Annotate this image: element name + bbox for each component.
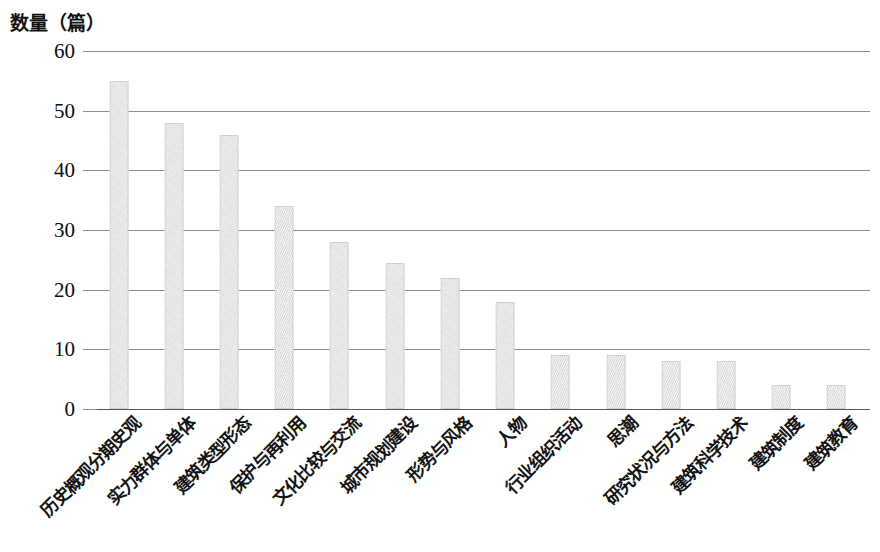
y-axis-title: 数量（篇） [10,8,105,35]
bar [496,302,515,409]
bar [772,385,791,409]
bar-chart: 数量（篇） 6050403020100 历史概观分期史观实力群体与单体建筑类型形… [0,0,880,552]
y-tick-label-0: 0 [65,399,76,420]
y-tick-mark-20 [83,290,97,291]
bar [109,81,128,409]
bar [440,278,459,409]
y-tick-mark-30 [83,230,97,231]
bar [551,355,570,409]
y-tick-label-10: 10 [54,339,75,360]
x-axis-label: 建筑制度 [745,412,809,476]
x-axis-label: 思潮 [602,412,643,453]
x-axis-label-text: 建筑制度 [743,411,807,475]
bars [97,51,870,409]
gridline-0: 0 [97,409,870,410]
x-axis-label-text: 建筑教育 [798,411,862,475]
y-tick-label-30: 30 [54,220,75,241]
bar [606,355,625,409]
bar [716,361,735,409]
y-tick-label-60: 60 [54,41,75,62]
y-tick-label-20: 20 [54,279,75,300]
y-tick-label-40: 40 [54,160,75,181]
y-tick-mark-0 [83,409,97,410]
y-tick-label-50: 50 [54,100,75,121]
plot-area: 6050403020100 [97,51,870,409]
x-axis-label: 建筑教育 [800,412,864,476]
bar [827,385,846,409]
y-tick-mark-10 [83,349,97,350]
x-axis-label-text: 思潮 [601,411,642,452]
y-tick-mark-60 [83,51,97,52]
bar [330,242,349,409]
bar [220,135,239,409]
x-axis-labels: 历史概观分期史观实力群体与单体建筑类型形态保护与再利用文化比较与交流城市规划建设… [97,412,870,552]
y-tick-mark-40 [83,170,97,171]
bar [661,361,680,409]
bar [164,123,183,409]
y-tick-mark-50 [83,111,97,112]
x-axis-label: 人物 [492,412,533,453]
x-axis-label-text: 人物 [490,411,531,452]
bar [385,263,404,409]
bar [275,206,294,409]
